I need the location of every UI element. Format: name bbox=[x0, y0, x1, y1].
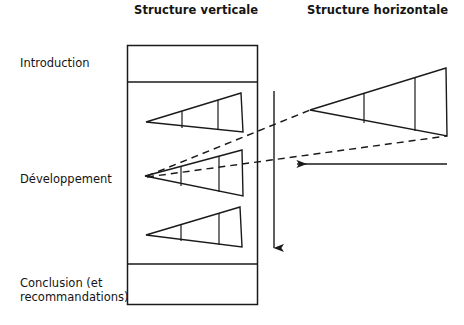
diagram-canvas bbox=[0, 0, 464, 325]
diagram-root: Structure verticale Structure horizontal… bbox=[0, 0, 464, 325]
horizontal-triangle bbox=[310, 68, 447, 136]
